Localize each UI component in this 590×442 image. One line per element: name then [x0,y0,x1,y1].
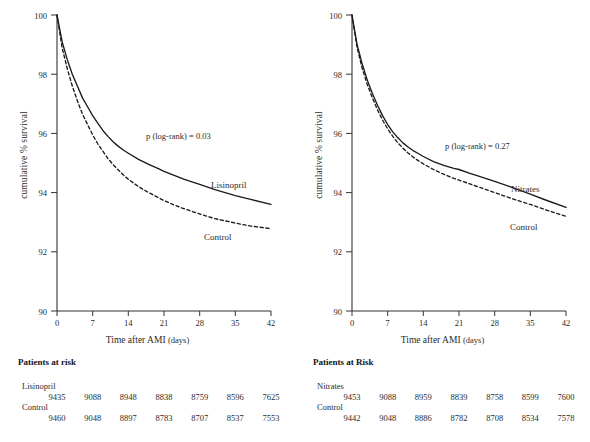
x-tick-label: 28 [195,318,204,328]
y-tick-label: 94 [334,188,343,198]
risk-count-cell: 9435 [40,392,74,402]
y-ticks-lisinopril: 100 98 96 94 92 90 [34,11,57,317]
curve-label-control-left: Control [204,232,232,242]
risk-count-cell: 9088 [371,392,405,402]
risk-count-cell: 8599 [513,392,547,402]
risk-count-cell: 8886 [406,413,440,423]
risk-count-cell: 8759 [183,392,217,402]
risk-count-cell: 8537 [218,413,252,423]
panel-nitrates: 100 98 96 94 92 90 0 7 14 21 28 35 [295,0,590,442]
x-axis-label-unit: (days) [463,335,484,345]
pvalue-annotation-lisinopril: p (log-rank) = 0.03 [146,131,211,141]
risk-count-cell: 8707 [183,413,217,423]
risk-count-cell: 8782 [442,413,476,423]
risk-count-cell: 7553 [254,413,288,423]
y-tick-label: 100 [329,11,342,21]
x-axis-label-main: Time after AMI [106,335,166,345]
x-tick-label: 21 [455,318,464,328]
axes-nitrates [352,15,566,311]
y-tick-label: 90 [39,307,48,317]
risk-table-title-left: Patients at risk [18,357,76,367]
risk-row-group-label: Control [317,402,343,412]
y-axis-label-nitrates: cumulative % survival [314,85,324,225]
x-tick-label: 7 [91,318,95,328]
x-tick-label: 21 [160,318,169,328]
y-tick-label: 96 [39,129,48,139]
x-axis-label-unit: (days) [168,335,189,345]
y-tick-label: 100 [34,11,47,21]
panel-lisinopril: 100 98 96 94 92 90 0 7 14 21 28 35 [0,0,295,442]
risk-count-cell: 7600 [549,392,583,402]
risk-count-cell: 7578 [549,413,583,423]
y-tick-label: 92 [334,247,343,257]
risk-count-cell: 8783 [147,413,181,423]
plot-area-lisinopril: 100 98 96 94 92 90 0 7 14 21 28 35 [0,0,295,340]
x-tick-label: 7 [386,318,390,328]
risk-count-cell: 8758 [478,392,512,402]
risk-count-cell: 8838 [147,392,181,402]
x-axis-label-nitrates: Time after AMI (days) [295,335,590,345]
y-axis-label-lisinopril: cumulative % survival [19,85,29,225]
y-tick-label: 90 [334,307,343,317]
x-tick-label: 42 [267,318,276,328]
risk-count-cell: 9088 [76,392,110,402]
x-tick-label: 35 [231,318,240,328]
x-tick-label: 28 [490,318,499,328]
curve-treatment-nitrates [352,15,566,207]
risk-count-cell: 9048 [76,413,110,423]
x-ticks-lisinopril: 0 7 14 21 28 35 42 [55,311,275,328]
risk-row-group-label: Lisinopril [22,381,56,391]
survival-chart-lisinopril: 100 98 96 94 92 90 0 7 14 21 28 35 [0,0,295,340]
pvalue-annotation-nitrates: p (log-rank) = 0.27 [445,141,510,151]
risk-count-cell: 9453 [335,392,369,402]
survival-chart-nitrates: 100 98 96 94 92 90 0 7 14 21 28 35 [295,0,590,340]
risk-count-cell: 8948 [111,392,145,402]
x-axis-label-main: Time after AMI [401,335,461,345]
risk-count-cell: 9048 [371,413,405,423]
curve-label-lisinopril: Lisinopril [211,180,247,190]
y-tick-label: 98 [334,70,343,80]
y-tick-label: 98 [39,70,48,80]
x-tick-label: 14 [124,318,133,328]
risk-count-cell: 8534 [513,413,547,423]
risk-row-group-label: Control [22,402,48,412]
risk-count-cell: 9460 [40,413,74,423]
risk-row-group-label: Nitrates [317,381,344,391]
x-tick-label: 0 [350,318,354,328]
risk-count-cell: 8839 [442,392,476,402]
risk-count-cell: 8708 [478,413,512,423]
x-axis-label-lisinopril: Time after AMI (days) [0,335,295,345]
y-tick-label: 96 [334,129,343,139]
x-tick-label: 14 [419,318,428,328]
risk-count-cell: 7625 [254,392,288,402]
plot-area-nitrates: 100 98 96 94 92 90 0 7 14 21 28 35 [295,0,590,340]
x-ticks-nitrates: 0 7 14 21 28 35 42 [350,311,570,328]
x-tick-label: 42 [562,318,571,328]
x-tick-label: 0 [55,318,59,328]
risk-count-cell: 8897 [111,413,145,423]
risk-count-cell: 9442 [335,413,369,423]
y-tick-label: 92 [39,247,48,257]
risk-table-title-right: Patients at Risk [313,357,374,367]
y-ticks-nitrates: 100 98 96 94 92 90 [329,11,352,317]
x-tick-label: 35 [526,318,535,328]
curve-label-control-right: Control [510,222,538,232]
risk-count-cell: 8596 [218,392,252,402]
risk-count-cell: 8959 [406,392,440,402]
y-tick-label: 94 [39,188,48,198]
axes-lisinopril [57,15,271,311]
curve-label-nitrates: Nitrates [511,184,540,194]
curve-treatment-lisinopril [57,15,271,204]
